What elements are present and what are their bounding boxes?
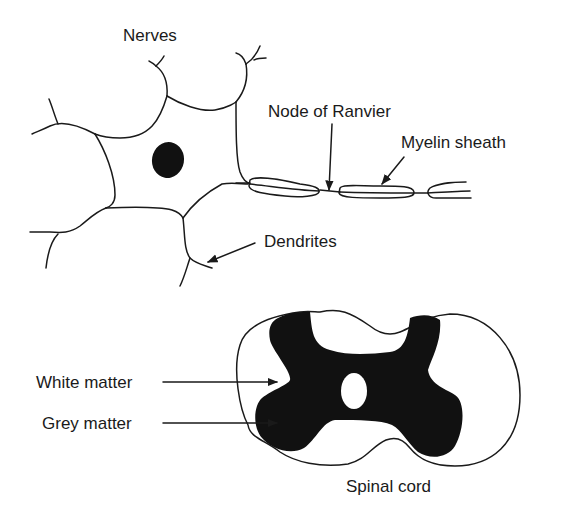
dendrites-arrow [208, 243, 255, 262]
label-myelin-sheath: Myelin sheath [401, 134, 506, 151]
myelin-sheath-arrow [382, 157, 404, 184]
dendrite-upper-left [32, 124, 95, 134]
neuron-body-left [95, 134, 115, 208]
node-of-ranvier-arrow [329, 124, 332, 190]
diagram-canvas: Nerves Node of Ranvier Myelin sheath Den… [0, 0, 573, 514]
central-canal [341, 373, 367, 409]
label-spinal-cord: Spinal cord [346, 478, 431, 495]
spinal-cord [237, 311, 520, 466]
label-node-of-ranvier: Node of Ranvier [268, 103, 391, 120]
label-grey-matter: Grey matter [42, 415, 132, 432]
neuron-body-top-left [95, 96, 167, 138]
neuron [30, 46, 471, 286]
label-dendrites: Dendrites [264, 233, 337, 250]
myelin-segment-3 [428, 182, 471, 198]
nucleus [149, 139, 187, 180]
dendrite-lower-right [183, 218, 212, 268]
neuron-body-top [167, 96, 236, 110]
label-white-matter: White matter [36, 374, 132, 391]
diagram-drawing [0, 0, 573, 514]
neuron-body-bottom [106, 207, 183, 218]
label-nerves: Nerves [123, 27, 177, 44]
dendrite-lower-left [30, 208, 106, 232]
